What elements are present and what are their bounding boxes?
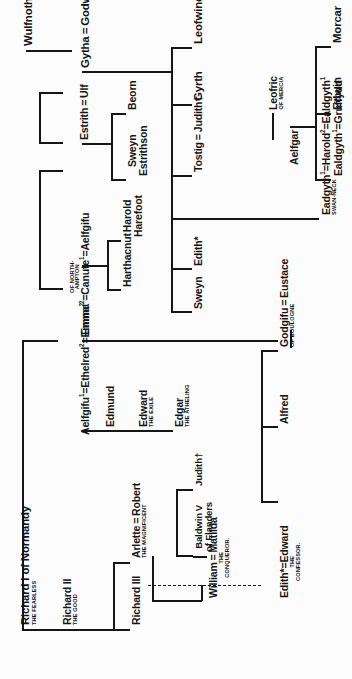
person-label: Richard III (130, 576, 142, 625)
line-baldwin-to-matilda (193, 556, 207, 558)
line-estrith-children-feed (82, 143, 112, 145)
person-label-emma: =Emma (79, 307, 91, 344)
line-branch-beorn (111, 113, 126, 115)
line-edmund-edward (104, 430, 137, 432)
person-sweyn-estrithson[interactable]: Sweyn Estrithson (127, 126, 148, 176)
person-label: Estrith = Ulf (78, 84, 90, 140)
person-label: Wulfnoth (22, 0, 34, 46)
person-wulfnoth[interactable]: Wulfnoth (23, 0, 35, 46)
line-branch-alfred (261, 426, 278, 428)
person-edmund[interactable]: Edmund (105, 386, 116, 427)
epithet: THE EXILE (149, 390, 155, 427)
person-aelfgifu-ethelred-emma[interactable]: Aelfgifu1=Ethelred2=Emma2 (79, 303, 90, 435)
marriage-order-3: 1 (319, 77, 326, 80)
line-canute-children-spine (107, 240, 109, 290)
line-bracket-ulf-emma (39, 170, 41, 289)
marriage-order-1: 1 (331, 129, 338, 132)
person-label-harold: =Harold (320, 133, 332, 171)
line-branch-sweyn-estrithson (111, 179, 126, 181)
line-bracket-bottom-estrith (39, 142, 63, 144)
marriage-order-2: 1 (78, 257, 85, 260)
person-aelfgar[interactable]: Aelfgar (289, 130, 300, 165)
person-sweyn[interactable]: Sweyn (193, 276, 204, 309)
genealogy-chart: Wulfnoth Gytha = Godwin Estrith = Ulf Be… (0, 0, 352, 679)
epithet: THE FEARLESS (32, 506, 38, 625)
person-godgifu-eustace[interactable]: Godgifu = Eustace OF BOULOGNE (279, 259, 296, 347)
line-branch-gyrth (171, 104, 192, 106)
person-label: Leofwine (192, 0, 204, 44)
line-branch-godgifu (261, 350, 278, 352)
person-label: Edith* (192, 237, 204, 266)
line-branch-richard3 (113, 629, 130, 631)
line-bracket-top-ulf (39, 170, 63, 172)
person-edgar-the-atheling[interactable]: Edgar THE ATHELING (174, 384, 191, 427)
line-branch-sweyn (171, 311, 192, 313)
person-aelfgifu-northampton-sub: OF NORTH- AMPTON (69, 261, 81, 293)
person-edith-star[interactable]: Edith* (193, 237, 204, 266)
person-richard-iii[interactable]: Richard III (131, 576, 142, 625)
line-edward-edgar (137, 430, 173, 432)
line-bracket-bottom-emma (39, 288, 63, 290)
marriage-order-1: 1 (78, 394, 85, 397)
epithet: THE MAGNIFICENT (142, 483, 148, 558)
epithet: OF BOULOGNE (290, 259, 296, 347)
person-gytha-godwin[interactable]: Gytha = Godwin (80, 0, 92, 68)
line-branch-edward-confessor (261, 501, 278, 503)
line-wulfnoth-godwin (26, 50, 72, 52)
person-label-ealdgyth: =Ealdgyth (320, 80, 332, 129)
person-label: Edward (137, 390, 149, 427)
person-label: Godgifu = Eustace (278, 259, 290, 347)
person-label: Arlette = Robert (130, 483, 142, 558)
person-tostig-judith[interactable]: Tostig = Judith† (193, 96, 204, 172)
person-label: Alfred (278, 395, 290, 424)
line-branch-harold (171, 218, 319, 220)
person-label: Leofric (267, 76, 279, 110)
line-richard1-emma-join (22, 340, 58, 342)
person-label-ethelred: =Ethelred (79, 347, 91, 394)
person-arlette-robert[interactable]: Arlette = Robert THE MAGNIFICENT (131, 483, 148, 558)
person-label: Edwin (331, 77, 343, 110)
person-label: Judith† (193, 453, 204, 486)
person-edwin[interactable]: Edwin (332, 77, 344, 110)
person-harold-harefoot[interactable]: Harold Harefoot (122, 195, 143, 237)
dashed-claim-link (148, 585, 261, 586)
person-estrith-ulf[interactable]: Estrith = Ulf (79, 84, 90, 140)
person-label: Morcar (331, 6, 343, 43)
person-beorn[interactable]: Beorn (127, 80, 138, 110)
epithet: OF NORTH- AMPTON (70, 261, 81, 293)
line-branch-robert (113, 562, 130, 564)
marriage-order-2: 2 (319, 129, 326, 132)
line-baldwin-children-spine (176, 489, 178, 556)
person-morcar[interactable]: Morcar (332, 6, 344, 43)
person-label: Edith*=Edward (278, 526, 290, 598)
person-judith-flanders[interactable]: Judith† (194, 453, 204, 486)
person-label: Harthacnut (121, 233, 133, 287)
line-richard1-richard2 (22, 629, 80, 631)
person-label-line2: Harefoot (132, 195, 144, 237)
person-harthacnut[interactable]: Harthacnut (122, 233, 133, 287)
line-aelfgar-feed (290, 126, 316, 128)
line-emma-to-ethelred (82, 340, 278, 342)
person-richard-i[interactable]: Richard I of Normandy THE FEARLESS (20, 506, 38, 625)
person-label-aelfgifu: Aelfgifu (79, 397, 91, 435)
epithet: THE ATHELING (185, 384, 191, 427)
line-richard2-feed (80, 629, 114, 631)
person-label: Gytha = Godwin (79, 0, 91, 68)
person-label: Aelfgar (288, 130, 300, 165)
person-label: William = Matilda (207, 517, 219, 598)
person-richard-ii[interactable]: Richard II THE GOOD (62, 579, 79, 625)
marriage-order-3: 2 (78, 303, 85, 306)
person-edith-edward-confessor[interactable]: Edith*=Edward THE CONFESSOR. (279, 526, 302, 598)
person-edward-the-exile[interactable]: Edward THE EXILE (138, 390, 155, 427)
person-william-matilda[interactable]: William = Matilda THE CONQUEROR. (208, 517, 231, 598)
line-branch-judith (176, 489, 193, 491)
person-label: Edgar (173, 398, 185, 427)
person-label: Sweyn (192, 276, 204, 309)
person-leofric-of-mercia[interactable]: Leofric OF MERCIA (268, 76, 285, 110)
marriage-order-1: 1 (319, 171, 326, 174)
line-william-stub (201, 585, 203, 601)
person-leofwine[interactable]: Leofwine (193, 0, 205, 44)
person-alfred[interactable]: Alfred (279, 395, 290, 424)
line-richard2-children-spine (113, 562, 115, 631)
line-branch-harthacnut (107, 289, 121, 291)
